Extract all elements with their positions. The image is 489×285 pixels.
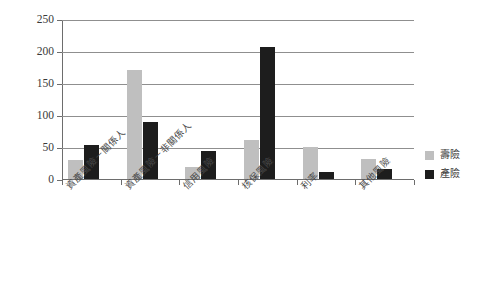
legend-swatch-icon-series-0: [425, 151, 434, 160]
chart-legend: 壽險 產險: [425, 150, 485, 188]
legend-label-series-1: 產險: [440, 169, 460, 179]
y-tick-label-0: 0: [48, 174, 54, 186]
bar-chart: 050100150200250 資產風險－關係人資產風險－非關係人信用風險核保風…: [0, 0, 489, 285]
y-tick-label-200: 200: [37, 46, 54, 58]
bar-1-series-0: [127, 70, 142, 179]
legend-label-series-0: 壽險: [440, 150, 460, 160]
bar-4-series-1: [319, 172, 334, 179]
x-tick-mark-end: [414, 180, 415, 185]
y-tick-label-50: 50: [43, 142, 55, 154]
plot-area: 050100150200250: [62, 20, 414, 180]
y-tick-label-250: 250: [37, 14, 54, 26]
y-tick-label-150: 150: [37, 78, 54, 90]
legend-swatch-icon-series-1: [425, 170, 434, 179]
legend-item-shouxian: 壽險: [425, 150, 485, 160]
y-tick-label-100: 100: [37, 110, 54, 122]
bar-group-4: [297, 19, 356, 179]
legend-item-chanxian: 產險: [425, 169, 485, 179]
